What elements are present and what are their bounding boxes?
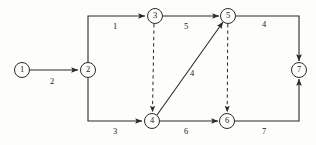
network-diagram: 2 1 3 5 4 6 7: [0, 0, 316, 145]
node-2[interactable]: 2: [81, 63, 96, 78]
node-label-7: 7: [297, 64, 301, 74]
edge-weight-4-5: 4: [190, 68, 195, 78]
edge-1-to-2: 2: [30, 70, 78, 86]
edge-6-to-7: 7: [235, 79, 299, 136]
node-label-1: 1: [20, 64, 24, 74]
node-label-3: 3: [153, 10, 157, 20]
edge-5-to-7: 4: [236, 16, 299, 61]
edge-weight-3-5: 5: [184, 21, 188, 31]
edge-4-to-6: 6: [160, 121, 218, 136]
edge-2-to-3: 1: [88, 16, 145, 63]
node-7[interactable]: 7: [292, 63, 307, 78]
node-label-6: 6: [225, 115, 229, 125]
node-3[interactable]: 3: [148, 9, 163, 24]
node-1[interactable]: 1: [15, 63, 30, 78]
node-5[interactable]: 5: [221, 9, 236, 24]
diagram-canvas: 2 1 3 5 4 6 7: [0, 0, 316, 145]
edge-4-to-5: 4: [157, 22, 223, 115]
node-label-5: 5: [226, 10, 230, 20]
edge-3-to-5: 5: [163, 16, 219, 31]
node-4[interactable]: 4: [145, 114, 160, 129]
edge-weight-4-6: 6: [184, 126, 188, 136]
edge-weight-2-4: 3: [113, 126, 117, 136]
edge-weight-2-3: 1: [113, 21, 117, 31]
edge-weight-5-7: 4: [262, 19, 267, 29]
node-label-2: 2: [86, 64, 90, 74]
edge-3-to-4-dashed: [153, 24, 155, 112]
edge-weight-1-2: 2: [50, 76, 54, 86]
edge-5-to-6-dashed: [227, 24, 228, 112]
node-6[interactable]: 6: [220, 114, 235, 129]
edge-2-to-4: 3: [88, 78, 142, 136]
edge-weight-6-7: 7: [262, 126, 266, 136]
